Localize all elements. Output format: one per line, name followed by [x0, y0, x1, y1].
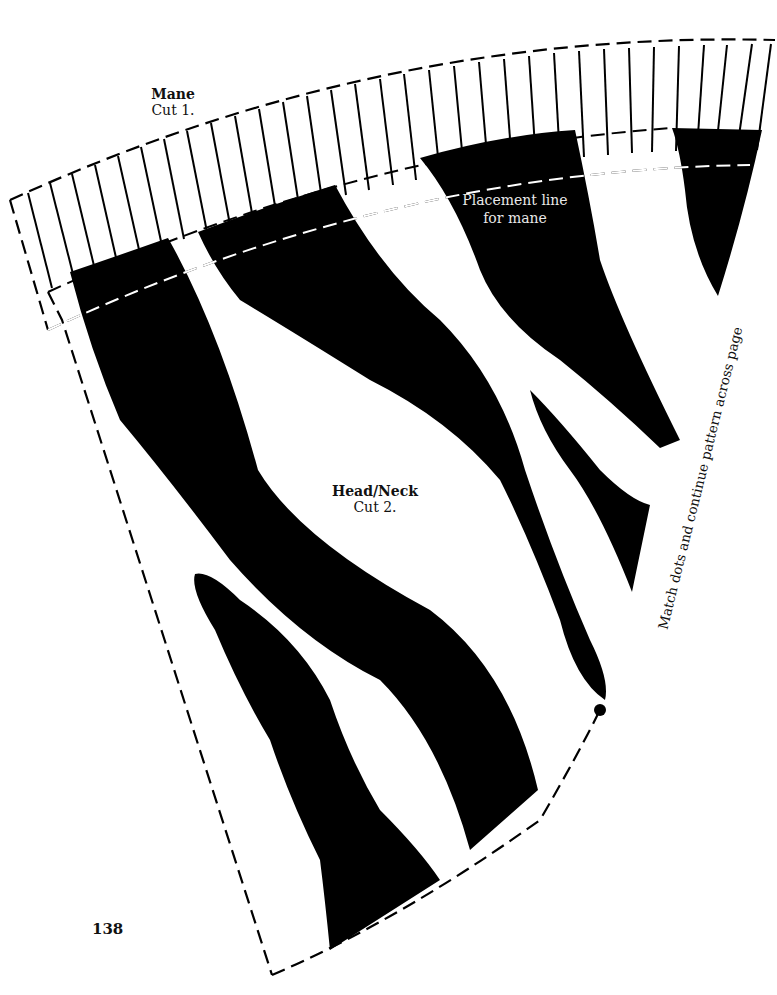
placement-line-text-1: Placement line	[440, 192, 590, 210]
head-neck-stripes	[70, 128, 762, 950]
mane-left-edge	[10, 200, 48, 330]
placement-line-text-2: for mane	[440, 210, 590, 228]
page-number: 138	[92, 920, 123, 938]
stripe-4	[672, 128, 762, 296]
placement-line-label: Placement line for mane	[440, 192, 590, 227]
mane-piece-label: Mane Cut 1.	[128, 86, 218, 118]
head-neck-piece-label: Head/Neck Cut 2.	[310, 483, 440, 515]
pattern-page: Mane Cut 1. Placement line for mane Head…	[0, 0, 777, 995]
head-neck-cut-count: Cut 2.	[310, 499, 440, 515]
match-dot	[594, 704, 606, 716]
mane-title: Mane	[128, 86, 218, 102]
mane-cut-count: Cut 1.	[128, 102, 218, 118]
head-neck-title: Head/Neck	[310, 483, 440, 499]
